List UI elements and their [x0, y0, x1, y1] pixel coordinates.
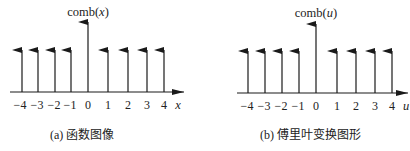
panel-a-caption: (a) 函数图像 — [50, 127, 114, 142]
tick-label: −3 — [258, 99, 271, 113]
panel-a-ylabel: comb(x) — [67, 5, 109, 19]
tick-label: 1 — [334, 99, 340, 113]
panel-b-ylabel: comb(u) — [295, 6, 337, 20]
tick-label: 4 — [389, 99, 395, 113]
tick-label: −1 — [64, 98, 77, 112]
panel-b-tick-labels: −4 −3 −2 −1 0 1 2 3 4 u — [241, 99, 410, 113]
panel-b-impulses — [248, 24, 392, 93]
panel-b-x-variable: u — [403, 99, 409, 113]
panel-a-x-variable: x — [174, 98, 181, 112]
figure-canvas: comb(x) −4 −3 −2 −1 0 1 2 3 4 x — [0, 0, 410, 151]
tick-label: 3 — [372, 99, 378, 113]
panel-b-fourier-plot: comb(u) −4 −3 −2 −1 0 1 2 3 4 u — [237, 6, 409, 142]
tick-label: −2 — [48, 98, 61, 112]
tick-label: 3 — [144, 98, 150, 112]
tick-label: 0 — [313, 99, 319, 113]
panel-a-tick-labels: −4 −3 −2 −1 0 1 2 3 4 x — [14, 98, 182, 112]
tick-label: 2 — [125, 98, 131, 112]
tick-label: −1 — [292, 99, 305, 113]
tick-label: −4 — [241, 99, 254, 113]
tick-label: 0 — [85, 98, 91, 112]
tick-label: −4 — [14, 98, 27, 112]
panel-a-function-plot: comb(x) −4 −3 −2 −1 0 1 2 3 4 x — [10, 5, 184, 142]
panel-a-impulses — [22, 22, 164, 92]
tick-label: 4 — [161, 98, 167, 112]
tick-label: −2 — [275, 99, 288, 113]
tick-label: −3 — [31, 98, 44, 112]
tick-label: 2 — [353, 99, 359, 113]
tick-label: 1 — [105, 98, 111, 112]
panel-b-caption: (b) 傅里叶变换图形 — [260, 127, 361, 142]
